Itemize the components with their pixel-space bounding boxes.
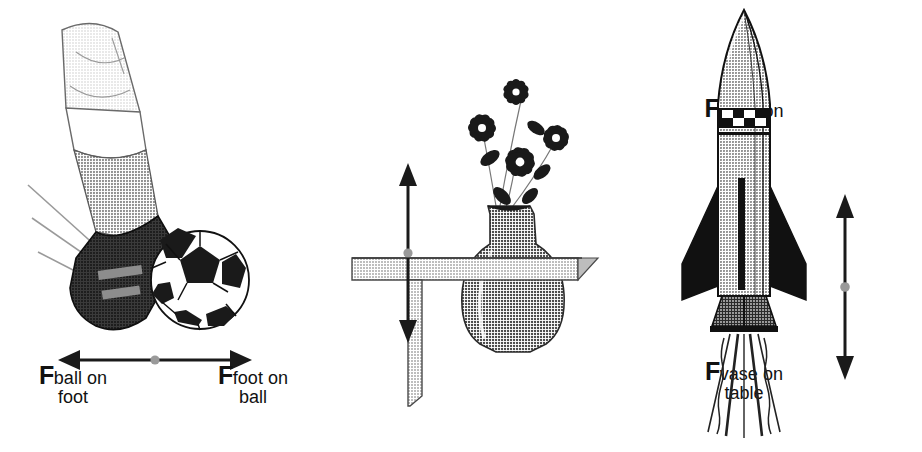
soccer-ball [151,228,249,330]
panel-rocket-exhaust: Fexhaust on rocket Frocket on exhaust [660,0,922,452]
rocket-stripe [738,178,745,290]
rocket-illustration [660,0,922,452]
rocket-exhaust-plume [708,334,780,438]
label-force-ball-on-foot: Fball on foot [0,362,148,407]
force-subscript-line1: ball on [54,368,107,388]
force-subscript-line2: ball [239,387,267,407]
force-subscript-line2: foot [58,387,88,407]
force-symbol: F [218,361,233,389]
physics-force-pair-figure: Fball on foot Ffoot on ball [0,0,922,452]
panel-vase-table: Ftable on vase Fvase on table [330,0,660,452]
panel-kick-ball: Fball on foot Ffoot on ball [0,0,320,452]
leg-knee-band [66,108,146,158]
force-subscript-line1: foot on [233,368,288,388]
force-symbol: F [39,361,54,389]
label-force-foot-on-ball: Ffoot on ball [178,362,328,407]
rocket-nozzle [710,296,778,332]
flowers [466,77,571,210]
force-pair-arrow-vertical [836,194,854,380]
vase-illustration [330,0,660,452]
